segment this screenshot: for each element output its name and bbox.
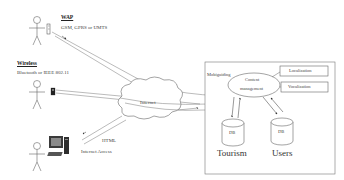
- user-figure-wireless: [29, 81, 45, 110]
- localization-label: Localization: [289, 68, 312, 73]
- mobile-phone-icon: [47, 24, 50, 34]
- content-management-line2: management: [240, 86, 263, 91]
- internet-access-label: Internet Access: [81, 149, 112, 154]
- db-users-label: DB: [278, 129, 284, 134]
- wireless-subtitle: Bluetooth or IEEE 802.11: [17, 70, 69, 75]
- wap-subtitle: GSM, GPRS or UMTS: [61, 25, 107, 30]
- user-figure-desktop: [29, 143, 45, 172]
- server-label: Mobiguiding: [207, 72, 231, 77]
- vocalization-label: Vocalization: [288, 84, 310, 89]
- tourism-label: Tourism: [217, 148, 247, 158]
- wireless-header: Wireless: [17, 60, 37, 66]
- architecture-diagram: WAP GSM, GPRS or UMTS Wireless Bluetooth…: [0, 0, 344, 180]
- internet-cloud: [118, 77, 183, 119]
- pda-icon: [51, 88, 55, 95]
- content-management-line1: Content: [245, 77, 259, 82]
- html-protocol-label: HTML: [102, 138, 116, 143]
- desktop-computer-icon: [47, 136, 69, 156]
- wap-header: WAP: [61, 14, 73, 20]
- db-tourism-label: DB: [229, 130, 235, 135]
- users-label: Users: [272, 148, 293, 158]
- internet-label: Internet: [140, 100, 156, 105]
- user-figure-wap: [29, 17, 45, 46]
